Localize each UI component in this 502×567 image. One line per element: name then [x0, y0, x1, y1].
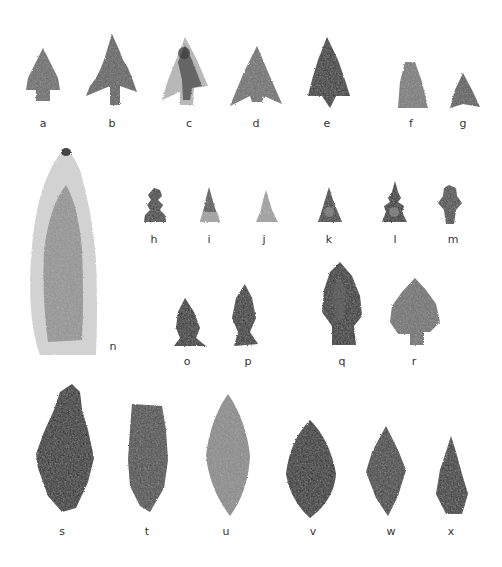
point-w [366, 426, 406, 516]
point-q [322, 262, 362, 345]
label-m: m [448, 234, 459, 245]
point-k [318, 187, 342, 222]
plate-figures [0, 0, 502, 567]
artifact-plate: a b c d e f g h i j k l m n o p q r s t … [0, 0, 502, 567]
label-q: q [339, 356, 346, 367]
label-t: t [145, 526, 149, 537]
point-n [30, 148, 97, 355]
label-r: r [412, 356, 417, 367]
label-o: o [184, 356, 191, 367]
point-u [206, 394, 250, 516]
point-p [232, 284, 258, 346]
label-h: h [151, 234, 158, 245]
label-v: v [310, 526, 317, 537]
point-s [36, 384, 94, 512]
point-a [26, 48, 60, 101]
point-c [162, 37, 208, 105]
point-m [438, 185, 462, 224]
label-d: d [253, 118, 260, 129]
label-e: e [324, 118, 331, 129]
point-r [390, 278, 440, 345]
point-f [398, 62, 428, 108]
point-x [436, 436, 468, 514]
label-s: s [59, 526, 65, 537]
label-n: n [110, 341, 117, 352]
point-b [86, 34, 137, 105]
label-x: x [448, 526, 455, 537]
point-h [144, 188, 166, 222]
point-v [286, 420, 336, 518]
label-u: u [223, 526, 230, 537]
label-i: i [207, 234, 210, 245]
label-j: j [262, 234, 265, 245]
point-d [230, 46, 282, 106]
label-p: p [245, 356, 252, 367]
label-b: b [109, 118, 116, 129]
label-a: a [40, 118, 47, 129]
label-l: l [393, 234, 396, 245]
point-o [174, 298, 206, 346]
label-g: g [460, 118, 467, 129]
label-k: k [326, 234, 332, 245]
label-w: w [387, 526, 396, 537]
point-t [128, 404, 168, 512]
point-l [382, 181, 407, 222]
point-g [450, 73, 480, 108]
label-c: c [186, 118, 192, 129]
point-e [308, 37, 350, 108]
point-i [200, 187, 220, 222]
label-f: f [409, 118, 413, 129]
point-j [256, 190, 278, 222]
